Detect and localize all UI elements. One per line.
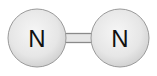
atom-label: N	[28, 25, 45, 52]
atom-nitrogen-left: N	[8, 9, 66, 67]
atom-label: N	[111, 25, 128, 52]
double-bond	[64, 33, 94, 43]
atom-nitrogen-right: N	[91, 9, 149, 67]
n2-molecule-diagram: N N	[0, 0, 157, 76]
